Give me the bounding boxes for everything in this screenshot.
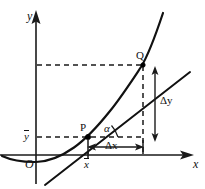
delta-y-dimension <box>152 66 159 142</box>
delta-y-label: Δy <box>160 95 173 106</box>
y-value-at-p-text: y <box>24 131 29 142</box>
point-p-label: P <box>80 122 86 133</box>
x-axis-label: x <box>193 158 198 170</box>
point-q-marker <box>141 63 145 67</box>
delta-x-label: Δx <box>105 140 118 151</box>
guide-lines-group <box>37 65 143 154</box>
x-value-at-p-text: x <box>84 159 89 170</box>
origin-label: O <box>25 158 34 170</box>
point-q-label: Q <box>136 50 144 61</box>
point-p-marker <box>85 134 90 139</box>
y-axis-label: y <box>27 10 32 22</box>
derivative-diagram-figure: y x O P Q y x α Δx Δy <box>0 0 205 189</box>
y-value-at-p-label: y <box>24 131 29 142</box>
angle-alpha-label: α <box>104 123 110 134</box>
x-value-at-p-label: x <box>84 159 89 170</box>
tangent-line-at-p <box>45 72 190 185</box>
